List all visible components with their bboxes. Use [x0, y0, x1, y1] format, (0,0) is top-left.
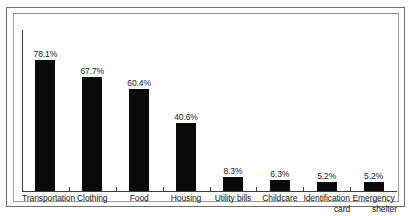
bar-value-label: 60.4% [127, 78, 151, 88]
category-label-line1: Food [130, 193, 149, 203]
category-label-band: TransportationClothingFoodHousingUtility… [22, 193, 397, 216]
category-label-6: Childcare [256, 193, 303, 204]
category-label-7: Identificationcard [303, 193, 350, 215]
bar-6 [270, 180, 290, 191]
category-label-3: Food [116, 193, 163, 204]
category-label-line1: Emergency [352, 193, 394, 203]
bar-value-label: 78.1% [34, 49, 58, 59]
category-label-line2: shelter [350, 204, 397, 215]
bar-group: 5.2% [350, 17, 397, 191]
figure-outer-frame: 78.1%67.7%60.4%40.6%8.3%6.3%5.2%5.2% Tra… [6, 7, 405, 207]
bar-value-label: 8.3% [223, 166, 242, 176]
bar-value-label: 40.6% [174, 112, 198, 122]
bar-7 [317, 182, 337, 191]
category-label-line1: Childcare [262, 193, 297, 203]
bar-group: 5.2% [303, 17, 350, 191]
bar-group: 67.7% [69, 17, 116, 191]
category-label-4: Housing [163, 193, 210, 204]
category-label-line1: Transportation [22, 193, 75, 203]
bar-chart-plot-area: 78.1%67.7%60.4%40.6%8.3%6.3%5.2%5.2% [22, 16, 397, 192]
bar-group: 40.6% [163, 17, 210, 191]
category-label-line2: card [303, 204, 350, 215]
bar-4 [176, 123, 196, 191]
bar-group: 78.1% [22, 17, 69, 191]
category-label-1: Transportation [22, 193, 69, 204]
bar-value-label: 6.3% [270, 169, 289, 179]
category-label-line1: Housing [171, 193, 202, 203]
bar-value-label: 5.2% [317, 171, 336, 181]
category-label-line1: Identification [303, 193, 349, 203]
bar-1 [35, 60, 55, 191]
category-label-8: Emergencyshelter [350, 193, 397, 215]
bar-value-label: 5.2% [364, 171, 383, 181]
bar-3 [129, 89, 149, 191]
bar-group: 60.4% [116, 17, 163, 191]
category-label-line1: Clothing [77, 193, 107, 203]
bar-value-label: 67.7% [80, 66, 104, 76]
bar-2 [82, 77, 102, 191]
category-label-5: Utility bills [210, 193, 257, 204]
bar-group: 6.3% [256, 17, 303, 191]
bar-5 [223, 177, 243, 191]
bar-group: 8.3% [210, 17, 257, 191]
category-label-2: Clothing [69, 193, 116, 204]
category-label-line1: Utility bills [215, 193, 251, 203]
chart-plot-frame: 78.1%67.7%60.4%40.6%8.3%6.3%5.2%5.2% Tra… [13, 13, 399, 202]
bar-8 [364, 182, 384, 191]
